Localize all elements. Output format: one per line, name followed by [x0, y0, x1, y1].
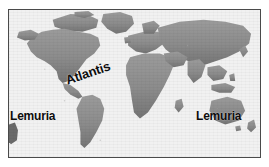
map-label-lemuria-east: Lemuria: [196, 110, 241, 122]
landmass-uk: [124, 37, 131, 44]
map-frame: [8, 9, 261, 158]
world-map-figure: Lemuria Atlantis Lemuria: [0, 0, 269, 167]
world-map-graphic: [9, 10, 260, 157]
landmass-tasmania: [235, 125, 241, 131]
map-label-lemuria-west: Lemuria: [10, 110, 55, 122]
